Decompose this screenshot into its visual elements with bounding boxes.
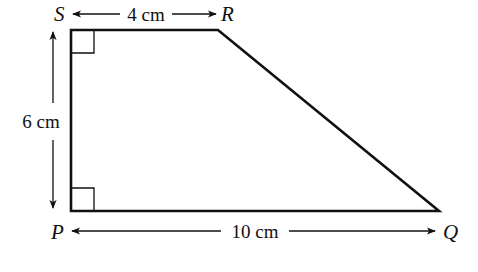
right-angle-marker-p [71, 188, 94, 211]
left-dimension-label: 6 cm [22, 111, 60, 132]
vertex-label-p: P [50, 220, 64, 244]
vertex-label-s: S [54, 2, 65, 26]
right-angle-marker-s [71, 30, 94, 53]
trapezium-diagram: 4 cm 6 cm 10 cm S R P Q [0, 0, 478, 272]
trapezium-outline [71, 30, 439, 211]
vertex-label-q: Q [443, 220, 458, 244]
top-dimension-label: 4 cm [127, 4, 165, 25]
vertex-label-r: R [220, 2, 234, 26]
bottom-dimension-label: 10 cm [232, 221, 279, 242]
